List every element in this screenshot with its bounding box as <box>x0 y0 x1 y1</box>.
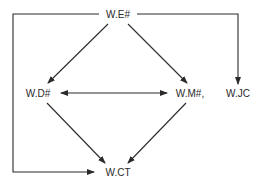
node-wjc: W.JC <box>226 88 250 99</box>
node-wct: W.CT <box>106 167 131 178</box>
dependency-diagram: W.E# W.D# W.M#, W.JC W.CT <box>0 0 262 184</box>
node-we: W.E# <box>106 9 130 20</box>
edge-wm-to-wct <box>128 103 186 163</box>
edge-we-to-wd <box>48 24 108 83</box>
edge-we-to-wm <box>128 24 187 83</box>
edge-we-to-wjc <box>137 14 238 84</box>
edge-wd-to-wct <box>47 103 105 163</box>
node-wd: W.D# <box>26 88 51 99</box>
node-wm: W.M#, <box>176 88 204 99</box>
